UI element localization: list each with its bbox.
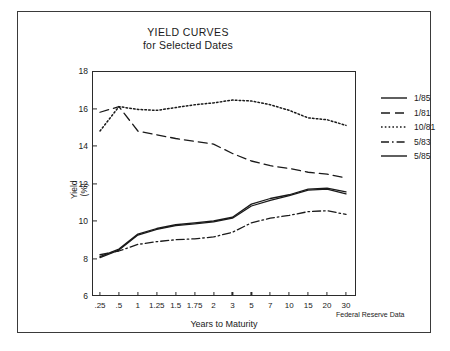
y-tick-label: 16: [79, 104, 88, 114]
title-line-1: YIELD CURVES: [18, 26, 358, 39]
plot-right-border: [355, 71, 356, 296]
legend-item-5-83[interactable]: 5/83: [381, 135, 450, 150]
x-tick-mark: [118, 292, 119, 297]
legend-label: 1/81: [414, 108, 431, 118]
x-tick-mark: [308, 292, 309, 297]
title-line-2: for Selected Dates: [18, 39, 358, 52]
x-tick-label: 3: [230, 301, 234, 310]
x-tick-label: 1.25: [149, 301, 165, 310]
x-axis-label: Years to Maturity: [92, 319, 356, 329]
x-tick-mark: [194, 292, 195, 297]
x-tick-mark: [137, 292, 138, 297]
y-axis-label-line-2: (%): [80, 160, 90, 220]
legend-item-10-81[interactable]: 10/81: [381, 120, 450, 135]
x-tick-label: 20: [323, 301, 332, 310]
plot-top-border: [92, 71, 356, 72]
x-tick-mark: [232, 292, 233, 297]
y-tick-label: 12: [79, 179, 88, 189]
x-tick-label: 1.5: [170, 301, 181, 310]
legend-label: 5/83: [414, 137, 431, 147]
series-lines: [92, 71, 356, 296]
x-tick-mark: [175, 292, 176, 297]
y-tick-mark: [92, 183, 97, 184]
series-line-1-85: [100, 188, 346, 256]
y-tick-mark: [92, 145, 97, 146]
x-tick-label: 1.75: [187, 301, 203, 310]
legend: 1/851/8110/815/835/85: [381, 91, 450, 164]
y-tick-label: 10: [79, 216, 88, 226]
chart-title: YIELD CURVES for Selected Dates: [18, 26, 358, 52]
x-tick-label: .25: [94, 301, 105, 310]
x-tick-mark: [326, 292, 327, 297]
legend-item-5-85[interactable]: 5/85: [381, 149, 450, 164]
legend-swatch-icon: [381, 93, 407, 103]
x-tick-label: .5: [116, 301, 123, 310]
legend-swatch-icon: [381, 122, 407, 132]
x-tick-label: 2: [211, 301, 215, 310]
y-tick-label: 8: [83, 254, 88, 264]
series-line-5-85: [100, 189, 346, 257]
legend-item-1-85[interactable]: 1/85: [381, 91, 450, 106]
legend-label: 10/81: [414, 122, 435, 132]
legend-swatch-icon: [381, 137, 407, 147]
x-axis-line: [92, 295, 356, 296]
legend-swatch-icon: [381, 108, 407, 118]
legend-label: 1/85: [414, 93, 431, 103]
legend-swatch-icon: [381, 151, 407, 161]
series-line-5-83: [100, 211, 346, 255]
y-tick-mark: [92, 258, 97, 259]
series-line-10-81: [100, 100, 346, 131]
x-tick-mark: [345, 292, 346, 297]
y-tick-mark: [92, 108, 97, 109]
y-tick-label: 18: [79, 66, 88, 76]
x-tick-label: 7: [268, 301, 272, 310]
y-tick-label: 14: [79, 141, 88, 151]
x-tick-mark: [251, 292, 252, 297]
figure-frame: YIELD CURVES for Selected Dates Yield (%…: [17, 11, 431, 333]
x-tick-mark: [156, 292, 157, 297]
x-tick-mark: [289, 292, 290, 297]
x-tick-label: 15: [304, 301, 313, 310]
x-tick-mark: [270, 292, 271, 297]
x-tick-label: 5: [249, 301, 253, 310]
x-tick-label: 10: [285, 301, 294, 310]
y-tick-label: 6: [83, 291, 88, 301]
legend-label: 5/85: [414, 151, 431, 161]
x-tick-mark: [99, 292, 100, 297]
x-tick-label: 30: [342, 301, 351, 310]
x-tick-mark: [213, 292, 214, 297]
plot-area: 681012141618 .25.511.251.51.752357101520…: [92, 71, 356, 296]
x-tick-label: 1: [136, 301, 140, 310]
y-axis-label: Yield (%): [70, 160, 90, 220]
source-note: Federal Reserve Data: [336, 311, 404, 318]
legend-item-1-81[interactable]: 1/81: [381, 106, 450, 121]
y-tick-mark: [92, 220, 97, 221]
